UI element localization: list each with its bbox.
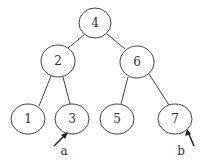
node-4-label: 4 [91, 16, 99, 30]
binary-tree-diagram: 4 2 6 1 3 5 7 a b [0, 0, 204, 164]
node-7-label: 7 [171, 112, 179, 126]
edge-2-3 [63, 77, 70, 104]
edge-6-7 [149, 74, 169, 105]
node-1-label: 1 [24, 112, 32, 126]
node-3-label: 3 [68, 112, 76, 126]
pointer-b-label: b [177, 144, 185, 158]
node-5-label: 5 [113, 112, 121, 126]
edge-2-1 [39, 76, 51, 106]
node-2-label: 2 [54, 54, 62, 68]
edge-4-2 [68, 35, 84, 48]
tree-canvas: 4 2 6 1 3 5 7 a b [0, 0, 204, 164]
node-6-label: 6 [133, 55, 141, 69]
edge-6-5 [121, 77, 128, 104]
pointer-a-label: a [60, 144, 67, 158]
edge-4-6 [107, 34, 125, 49]
